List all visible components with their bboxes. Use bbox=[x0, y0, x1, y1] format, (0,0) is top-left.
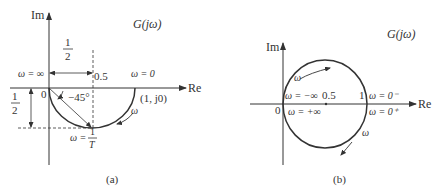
omega-T-lhs: ω = bbox=[70, 132, 86, 143]
omega-dir-top-label: ω bbox=[294, 72, 301, 83]
omega-T-den: T bbox=[89, 139, 96, 150]
function-label-a: G(jω) bbox=[133, 17, 161, 31]
origin-label-b: 0 bbox=[275, 104, 281, 116]
im-axis-label-a: Im bbox=[31, 8, 45, 22]
angle-label: −45° bbox=[68, 91, 90, 103]
re-axis-label-b: Re bbox=[418, 97, 431, 111]
one-label-b: 1 bbox=[359, 89, 365, 101]
omega-dir-label-a: ω bbox=[131, 105, 138, 116]
center-label-b: 0.5 bbox=[322, 89, 336, 101]
omega-zero-minus-label: ω = 0⁻ bbox=[369, 90, 399, 101]
half-left-den: 2 bbox=[12, 104, 18, 116]
omega-dir-right-label: ω bbox=[362, 127, 369, 138]
omega-T-num: 1 bbox=[90, 126, 95, 137]
caption-a: (a) bbox=[106, 173, 119, 186]
figure-b: Im Re G(jω) 0 0.5 1 ω = −∞ ω = +∞ ω = 0⁻… bbox=[250, 27, 431, 186]
im-axis-label-b: Im bbox=[266, 40, 280, 54]
angle-arc bbox=[58, 91, 63, 99]
origin-label-a: 0 bbox=[41, 88, 47, 100]
omega-zero-label-a: ω = 0 bbox=[131, 68, 155, 79]
figure-a: Im Re G(jω) 1 2 1 2 0 0.5 ω = ∞ ω = 0 −4… bbox=[10, 8, 201, 186]
omega-direction-arrow-top bbox=[300, 68, 330, 79]
function-label-b: G(jω) bbox=[387, 27, 415, 41]
omega-pos-inf-label: ω = +∞ bbox=[288, 106, 321, 117]
omega-inf-label-a: ω = ∞ bbox=[18, 68, 44, 79]
re-axis-label-a: Re bbox=[188, 81, 201, 95]
half-left-num: 1 bbox=[12, 90, 18, 102]
nyquist-diagrams: Im Re G(jω) 1 2 1 2 0 0.5 ω = ∞ ω = 0 −4… bbox=[0, 0, 442, 193]
point-one-label-a: (1, j0) bbox=[140, 92, 167, 105]
half-mark-label-a: 0.5 bbox=[94, 70, 108, 82]
caption-b: (b) bbox=[333, 173, 346, 186]
center-dot bbox=[325, 103, 327, 105]
omega-neg-inf-label: ω = −∞ bbox=[285, 90, 318, 101]
omega-zero-plus-label: ω = 0⁺ bbox=[369, 106, 399, 117]
half-top-den: 2 bbox=[65, 50, 71, 62]
half-top-num: 1 bbox=[65, 36, 71, 48]
